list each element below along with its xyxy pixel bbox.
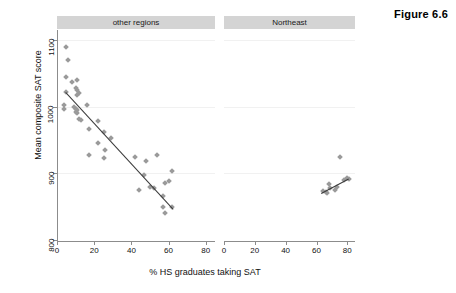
- gridline: [224, 107, 355, 108]
- y-axis-title: Mean composite SAT score: [33, 5, 43, 205]
- y-axis-line: [57, 30, 58, 241]
- data-point: [95, 118, 101, 124]
- x-tick-label: 60: [159, 246, 179, 255]
- panel-title-other-regions: other regions: [113, 18, 160, 27]
- data-point: [136, 187, 142, 193]
- panel-title-northeast: Northeast: [272, 18, 307, 27]
- data-point: [86, 126, 92, 132]
- x-tick-mark: [94, 241, 95, 245]
- gridline: [224, 173, 355, 174]
- plot-panel-northeast: [224, 30, 355, 240]
- plot-panel-other-regions: [57, 30, 215, 240]
- data-point: [63, 74, 69, 80]
- data-point: [143, 158, 149, 164]
- data-point: [75, 110, 81, 116]
- x-tick-mark: [131, 241, 132, 245]
- panel-strip-northeast: Northeast: [224, 16, 355, 29]
- figure-container: Figure 6.6 other regions Northeast 80090…: [0, 0, 456, 293]
- gridline: [57, 40, 215, 41]
- data-point: [102, 147, 108, 153]
- data-point: [101, 155, 107, 161]
- data-point: [65, 57, 71, 63]
- x-tick-label: 20: [84, 246, 104, 255]
- y-tick-label: 1000: [47, 105, 56, 123]
- gridline: [57, 173, 215, 174]
- regression-fit-line: [66, 92, 175, 210]
- x-tick-mark: [255, 241, 256, 245]
- figure-label: Figure 6.6: [394, 8, 448, 20]
- x-axis-line-right: [224, 241, 355, 242]
- data-point: [132, 154, 138, 160]
- x-tick-mark: [347, 241, 348, 245]
- x-tick-label: 20: [245, 246, 265, 255]
- gridline: [224, 40, 355, 41]
- data-point: [95, 140, 101, 146]
- x-tick-mark: [317, 241, 318, 245]
- y-tick-label: 900: [47, 172, 56, 185]
- x-tick-mark: [224, 241, 225, 245]
- x-tick-mark: [57, 241, 58, 245]
- data-point: [75, 77, 81, 83]
- data-point: [63, 44, 69, 50]
- x-tick-label: 40: [276, 246, 296, 255]
- x-axis-title: % HS graduates taking SAT: [55, 267, 355, 277]
- x-axis-line-left: [57, 241, 215, 242]
- x-tick-mark: [286, 241, 287, 245]
- x-tick-label: 40: [121, 246, 141, 255]
- data-point: [155, 152, 161, 158]
- data-point: [78, 117, 84, 123]
- data-point: [337, 154, 343, 160]
- data-point: [162, 210, 168, 216]
- x-tick-label: 80: [337, 246, 357, 255]
- x-tick-label: 0: [47, 246, 67, 255]
- x-tick-mark: [169, 241, 170, 245]
- data-point: [86, 152, 92, 158]
- panel-strip-other-regions: other regions: [57, 16, 215, 29]
- x-tick-label: 60: [307, 246, 327, 255]
- x-tick-label: 0: [214, 246, 234, 255]
- x-tick-mark: [206, 241, 207, 245]
- y-tick-label: 1100: [47, 39, 56, 56]
- x-tick-label: 80: [196, 246, 216, 255]
